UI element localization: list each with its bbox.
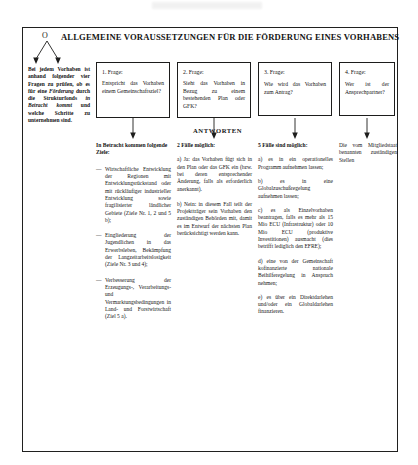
- diagram-frame: O ALLGEMEINE VORAUSSETZUNGEN FÜR DIE FÖR…: [22, 27, 398, 452]
- question-3-label: 3. Frage:: [264, 68, 326, 76]
- answer-3-item-1: a) es in ein operationelles Programm auf…: [258, 156, 333, 171]
- question-2-text: Sieht das Vorhaben in Bezug zu einem bes…: [183, 80, 245, 110]
- question-box-1: 1. Frage: Entspricht das Vorhaben einem …: [96, 62, 170, 118]
- question-box-3: 3. Frage: Wie wird das Vorhaben zum Antr…: [258, 62, 332, 116]
- dash-bullet-icon: —: [96, 232, 102, 239]
- dash-bullet-icon: —: [96, 166, 102, 173]
- answer-3-heading: 5 Fälle sind möglich:: [258, 142, 333, 149]
- origin-node-marker: O: [42, 32, 48, 40]
- answers-section-label: ANTWORTEN: [193, 127, 242, 134]
- answer-2-heading: 2 Fälle möglich:: [177, 142, 252, 149]
- answer-3-item-3: c) es als Einzelvorhaben beantragen, fal…: [258, 207, 333, 251]
- answer-1-item-3-text: Verbesserung der Erzeugungs-, Verarbeitu…: [105, 277, 171, 319]
- answer-1-item-1: — Wirtschaftliche Entwicklung der Region…: [96, 166, 171, 224]
- answer-3-item-2: b) es in eine Globalzuschußregelung aufn…: [258, 178, 333, 200]
- answer-column-1: In Betracht kommen folgende Ziele: — Wir…: [96, 142, 171, 328]
- answer-1-item-3: — Verbesserung der Erzeugungs-, Verarbei…: [96, 277, 171, 321]
- answer-3-item-5: e) es über ein Direktdarlehen und/oder e…: [258, 294, 333, 316]
- question-1-label: 1. Frage:: [102, 68, 164, 76]
- scan-artifact-top: [152, 2, 262, 9]
- dash-bullet-icon: —: [96, 277, 102, 284]
- page-title: ALLGEMEINE VORAUSSETZUNGEN FÜR DIE FÖRDE…: [61, 32, 393, 42]
- question-2-label: 2. Frage:: [183, 68, 245, 76]
- answer-4-text: Die vom Mitgliedstaat benannten zuständi…: [339, 142, 397, 164]
- answer-1-heading: In Betracht kommen folgende Ziele:: [96, 142, 171, 157]
- question-box-2: 2. Frage: Sieht das Vorhaben in Bezug zu…: [177, 62, 251, 118]
- answer-column-3: 5 Fälle sind möglich: a) es in ein opera…: [258, 142, 333, 323]
- answer-2-item-1: a) Ja: das Vorhaben fügt sich in den Pla…: [177, 156, 252, 192]
- answer-1-item-2: — Eingliederung der Jugendlichen in das …: [96, 232, 171, 268]
- answer-1-item-1-text: Wirtschaftliche Entwicklung der Regionen…: [105, 166, 171, 223]
- intro-emphasis-foerderung: Förderung: [49, 88, 74, 94]
- question-3-text: Wie wird das Vorhaben zum Antrag?: [264, 81, 326, 96]
- answer-3-item-4: d) eine von der Gemeinschaft kofinanzier…: [258, 258, 333, 287]
- question-box-4: 4. Frage: Wer ist der Ansprechpartner?: [339, 62, 395, 116]
- question-1-text: Entspricht das Vorhaben einem Gemeinscha…: [102, 80, 164, 95]
- intro-paragraph: Bei jedem Vorhaben ist anhand folgender …: [28, 66, 90, 124]
- origin-fan-arrows: [27, 40, 83, 66]
- question-4-label: 4. Frage:: [345, 68, 389, 76]
- answer-1-item-2-text: Eingliederung der Jugendlichen in das Er…: [105, 232, 171, 267]
- question-4-text: Wer ist der Ansprechpartner?: [345, 81, 389, 96]
- answer-column-4: Die vom Mitgliedstaat benannten zuständi…: [339, 142, 397, 164]
- answer-2-item-2: b) Nein: in diesem Fall teilt der Projek…: [177, 201, 252, 237]
- answer-column-2: 2 Fälle möglich: a) Ja: das Vorhaben füg…: [177, 142, 252, 245]
